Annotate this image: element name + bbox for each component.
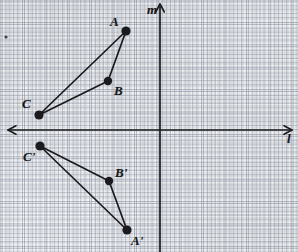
point-label-b: B <box>114 84 123 97</box>
axis-label-l: l <box>287 132 291 145</box>
point-label-c: C <box>22 97 31 110</box>
point-label-c-prime: C' <box>23 150 35 163</box>
geometry-figure <box>0 0 298 252</box>
point-label-b-prime: B' <box>115 166 127 179</box>
axis-label-m: m <box>147 3 157 16</box>
worksheet-figure: ABCA'B'C'ml <box>0 0 298 252</box>
point-label-a: A <box>110 15 119 28</box>
stray-scan-mark <box>4 35 7 38</box>
vertex-dot-a <box>121 26 130 35</box>
vertex-dot-c <box>34 110 43 119</box>
triangle-ABC-prime <box>40 146 127 230</box>
vertex-dot-b-prime <box>105 177 113 185</box>
vertex-dot-c-prime <box>35 141 44 150</box>
vertex-dot-b <box>104 77 112 85</box>
triangle-ABC <box>39 31 126 115</box>
point-label-a-prime: A' <box>131 234 143 247</box>
